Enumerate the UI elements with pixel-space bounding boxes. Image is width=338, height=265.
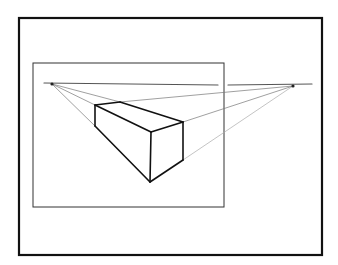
perspective-drawing xyxy=(0,0,338,265)
perspective-guides xyxy=(52,84,293,160)
vanishing-point xyxy=(50,82,53,85)
horizon-segment xyxy=(228,84,312,85)
box-edge xyxy=(95,102,120,105)
horizon-segment xyxy=(44,83,218,85)
guide-line xyxy=(52,84,95,126)
guide-line xyxy=(52,84,95,105)
box xyxy=(95,102,183,182)
guide-line xyxy=(183,86,293,160)
box-edge xyxy=(150,132,151,182)
vanishing-point xyxy=(291,84,294,87)
horizon-line xyxy=(44,83,312,85)
box-edge xyxy=(95,126,150,182)
guide-line xyxy=(52,84,120,102)
box-edge xyxy=(120,102,183,122)
box-edge xyxy=(151,122,183,132)
box-edge xyxy=(150,160,183,182)
guide-line xyxy=(120,86,293,102)
outer-frame xyxy=(19,18,322,255)
